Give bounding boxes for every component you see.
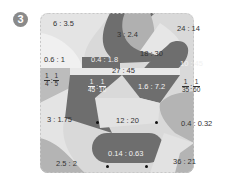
fraction-pair[interactable]: 145 : 110 (88, 79, 106, 93)
region-label[interactable]: 1.6 : 7.2 (138, 83, 165, 91)
marker-dot (96, 121, 99, 124)
region-label[interactable]: 0.4 : 0.32 (181, 120, 212, 128)
region-label[interactable]: 27 : 45 (112, 67, 135, 75)
region-label[interactable]: 0.6 : 1 (44, 56, 65, 64)
region-label[interactable]: 3 : 1.75 (47, 116, 72, 124)
region-label[interactable]: 12 : 20 (116, 117, 139, 125)
marker-dot (155, 121, 158, 124)
marker-dot (106, 165, 109, 168)
region-label[interactable]: 0.14 : 0.63 (108, 150, 143, 158)
region-label[interactable]: 6 : 3.5 (53, 20, 74, 28)
fraction-pair[interactable]: 14 : 15 (44, 73, 59, 87)
exercise-number-badge: 3 (13, 12, 28, 27)
region-label[interactable]: 24 : 14 (177, 25, 200, 33)
region-label[interactable]: 36 : 21 (173, 158, 196, 166)
region-label[interactable]: 3 : 2.4 (117, 31, 138, 39)
fraction-pair[interactable]: 135 : 160 (182, 79, 200, 93)
region-label[interactable]: 2.5 : 2 (56, 160, 77, 168)
region-label[interactable]: 10 : 45 (180, 60, 203, 68)
marker-dot (145, 165, 148, 168)
region-label[interactable]: 18 : 30 (140, 50, 163, 58)
region-label[interactable]: 0.4 : 1.8 (91, 56, 118, 64)
